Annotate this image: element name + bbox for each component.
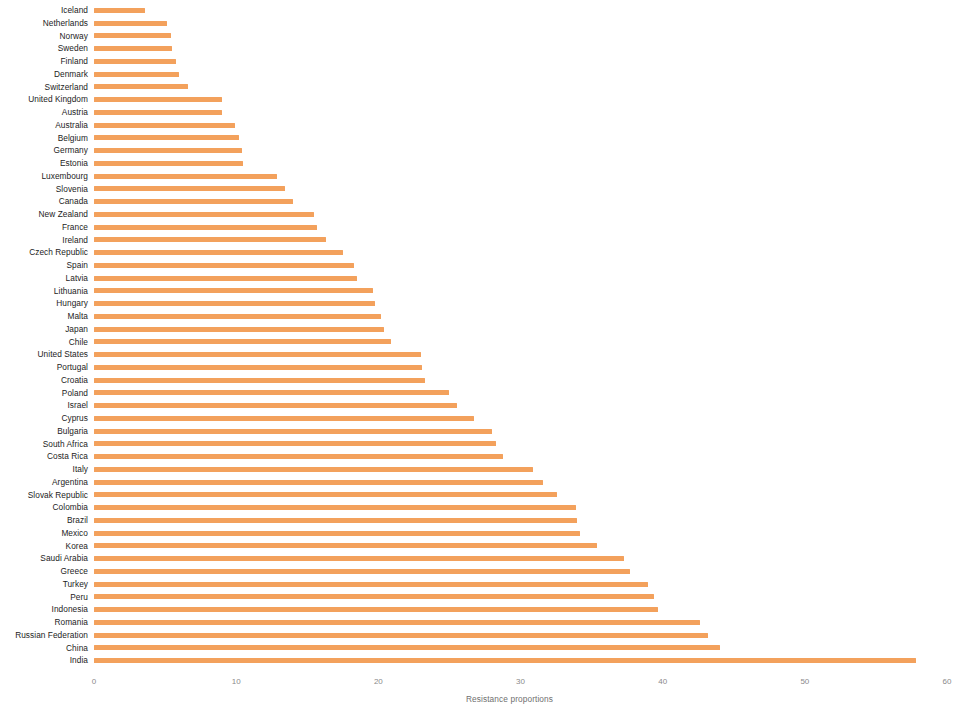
bar-fill[interactable] [94, 97, 222, 102]
bar-row: Slovenia [0, 183, 965, 196]
bar-fill[interactable] [94, 250, 343, 255]
bar-category-label: Colombia [53, 501, 88, 514]
bar-fill[interactable] [94, 148, 242, 153]
bar-fill[interactable] [94, 327, 384, 332]
bar-fill[interactable] [94, 21, 167, 26]
bar-fill[interactable] [94, 33, 171, 38]
bar-category-label: Italy [73, 463, 88, 476]
bar-category-label: Brazil [67, 514, 88, 527]
bar-fill[interactable] [94, 492, 557, 497]
bar-category-label: United Kingdom [28, 93, 88, 106]
bar-fill[interactable] [94, 607, 658, 612]
bar-fill[interactable] [94, 390, 449, 395]
bar-fill[interactable] [94, 441, 496, 446]
bar-fill[interactable] [94, 339, 391, 344]
bar-category-label: Germany [54, 144, 88, 157]
bar-fill[interactable] [94, 594, 654, 599]
bar-row: Estonia [0, 157, 965, 170]
bar-row: South Africa [0, 438, 965, 451]
bar-fill[interactable] [94, 72, 179, 77]
bar-fill[interactable] [94, 454, 503, 459]
bar-row: Malta [0, 310, 965, 323]
bar-fill[interactable] [94, 123, 235, 128]
bar-fill[interactable] [94, 658, 916, 663]
bar-fill[interactable] [94, 556, 624, 561]
bar-row: Croatia [0, 374, 965, 387]
bar-fill[interactable] [94, 403, 457, 408]
bar-row: Romania [0, 616, 965, 629]
bar-category-label: Israel [67, 399, 88, 412]
bar-fill[interactable] [94, 416, 474, 421]
bar-fill[interactable] [94, 543, 597, 548]
bar-row: Peru [0, 591, 965, 604]
bar-row: Colombia [0, 501, 965, 514]
bar-fill[interactable] [94, 569, 630, 574]
bar-fill[interactable] [94, 582, 648, 587]
bar-category-label: Norway [60, 30, 88, 43]
bar-category-label: Sweden [58, 42, 88, 55]
bar-row: Norway [0, 30, 965, 43]
bar-fill[interactable] [94, 633, 708, 638]
bar-row: Finland [0, 55, 965, 68]
bar-category-label: Netherlands [43, 17, 88, 30]
bar-fill[interactable] [94, 225, 317, 230]
bar-fill[interactable] [94, 84, 188, 89]
bar-category-label: Slovenia [56, 183, 88, 196]
bar-category-label: Russian Federation [15, 629, 88, 642]
bar-fill[interactable] [94, 8, 145, 13]
bar-fill[interactable] [94, 186, 285, 191]
bar-fill[interactable] [94, 46, 172, 51]
bar-row: Canada [0, 195, 965, 208]
x-axis-tick-label: 50 [800, 677, 809, 686]
bar-row: Sweden [0, 42, 965, 55]
bar-row: Poland [0, 387, 965, 400]
bar-category-label: Korea [66, 540, 88, 553]
bar-row: Cyprus [0, 412, 965, 425]
bar-fill[interactable] [94, 314, 381, 319]
bar-row: Korea [0, 540, 965, 553]
bar-fill[interactable] [94, 59, 176, 64]
bar-row: Denmark [0, 68, 965, 81]
bar-category-label: Slovak Republic [28, 489, 88, 502]
bar-category-label: Iceland [61, 4, 88, 17]
bar-fill[interactable] [94, 518, 577, 523]
bar-category-label: New Zealand [39, 208, 88, 221]
bar-category-label: Switzerland [45, 81, 88, 94]
bar-fill[interactable] [94, 378, 425, 383]
bar-category-label: Argentina [52, 476, 88, 489]
bar-category-label: Mexico [61, 527, 88, 540]
bar-fill[interactable] [94, 174, 277, 179]
bar-fill[interactable] [94, 429, 492, 434]
bar-fill[interactable] [94, 352, 421, 357]
bar-fill[interactable] [94, 645, 720, 650]
bar-category-label: Ireland [62, 234, 88, 247]
bar-category-label: South Africa [43, 438, 88, 451]
bar-category-label: Poland [62, 387, 88, 400]
bar-category-label: Luxembourg [41, 170, 88, 183]
bar-fill[interactable] [94, 467, 533, 472]
bar-category-label: Malta [67, 310, 88, 323]
bar-fill[interactable] [94, 135, 239, 140]
bar-fill[interactable] [94, 161, 243, 166]
bar-fill[interactable] [94, 365, 422, 370]
bar-fill[interactable] [94, 620, 700, 625]
bar-fill[interactable] [94, 212, 314, 217]
bar-fill[interactable] [94, 276, 357, 281]
bar-category-label: Greece [60, 565, 88, 578]
bar-fill[interactable] [94, 263, 354, 268]
bar-fill[interactable] [94, 301, 375, 306]
bar-category-label: Indonesia [52, 603, 88, 616]
bar-row: Indonesia [0, 603, 965, 616]
bar-fill[interactable] [94, 505, 576, 510]
bar-category-label: Finland [60, 55, 88, 68]
bar-category-label: United States [38, 348, 88, 361]
bar-fill[interactable] [94, 480, 543, 485]
bar-fill[interactable] [94, 288, 373, 293]
bar-fill[interactable] [94, 531, 580, 536]
bar-row: Hungary [0, 297, 965, 310]
bar-fill[interactable] [94, 237, 326, 242]
bar-category-label: Lithuania [54, 285, 88, 298]
bar-fill[interactable] [94, 199, 293, 204]
bar-row: Iceland [0, 4, 965, 17]
bar-fill[interactable] [94, 110, 222, 115]
